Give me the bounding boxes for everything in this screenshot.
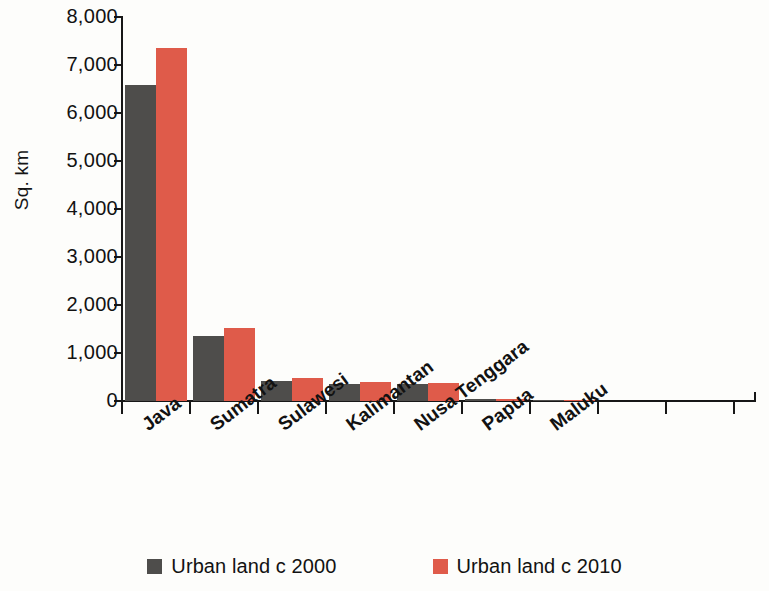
legend-item-urban-2010: Urban land c 2010 xyxy=(433,555,622,578)
x-tick-mark xyxy=(189,402,191,414)
y-tick-label: 6,000 xyxy=(22,101,118,124)
y-tick-label: 0 xyxy=(22,389,118,412)
y-tick-label: 1,000 xyxy=(22,341,118,364)
bar-chart-figure: Sq. km 01,0002,0003,0004,0005,0006,0007,… xyxy=(0,0,769,591)
x-axis-label-maluku: Maluku xyxy=(546,378,612,435)
y-tick-label: 4,000 xyxy=(22,197,118,220)
x-tick-mark xyxy=(121,402,123,414)
x-tick-mark xyxy=(665,402,667,414)
legend-label-urban-2010: Urban land c 2010 xyxy=(457,555,622,578)
bar-sumatra-2000 xyxy=(193,336,224,401)
legend-swatch-urban-2000 xyxy=(147,559,162,574)
x-tick-mark xyxy=(733,402,735,414)
bar-java-2000 xyxy=(125,85,156,401)
legend-item-urban-2000: Urban land c 2000 xyxy=(147,555,336,578)
y-tick-label: 3,000 xyxy=(22,245,118,268)
y-tick-label: 8,000 xyxy=(22,5,118,28)
x-axis-right-cap xyxy=(754,392,756,402)
chart-legend: Urban land c 2000 Urban land c 2010 xyxy=(0,555,769,578)
bar-java-2010 xyxy=(156,48,187,401)
legend-label-urban-2000: Urban land c 2000 xyxy=(171,555,336,578)
y-tick-label: 7,000 xyxy=(22,53,118,76)
y-tick-label: 2,000 xyxy=(22,293,118,316)
legend-swatch-urban-2010 xyxy=(433,559,448,574)
y-tick-label: 5,000 xyxy=(22,149,118,172)
